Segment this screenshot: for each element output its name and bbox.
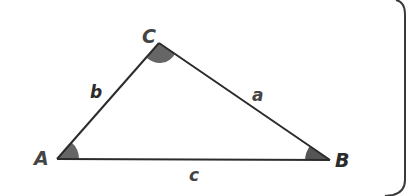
side-label-a: a (252, 85, 263, 105)
side-c-line (57, 159, 330, 160)
triangle-svg: A B C b a c (0, 0, 409, 196)
frame-border (385, 0, 405, 196)
vertex-label-c: C (142, 25, 156, 47)
side-b-line (57, 43, 159, 159)
vertex-label-b: B (335, 149, 349, 171)
side-a-line (159, 43, 330, 160)
vertex-label-a: A (32, 147, 49, 169)
side-label-c: c (189, 165, 199, 185)
triangle-diagram: A B C b a c (0, 0, 409, 196)
side-label-b: b (90, 82, 102, 102)
